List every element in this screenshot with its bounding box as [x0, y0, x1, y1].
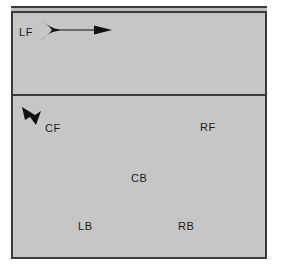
label-cb: CB	[131, 173, 147, 184]
label-rf: RF	[200, 122, 216, 133]
panel-divider	[11, 94, 267, 96]
label-cf: CF	[45, 123, 61, 134]
chevron-arrowhead-icon	[20, 103, 47, 130]
diagram-canvas: LF CF RF CB LB RB	[0, 0, 281, 275]
top-edge-band	[11, 8, 267, 13]
flared-flow-arrow	[38, 19, 116, 41]
label-lf: LF	[19, 27, 33, 38]
label-lb: LB	[78, 221, 93, 232]
label-rb: RB	[178, 221, 194, 232]
